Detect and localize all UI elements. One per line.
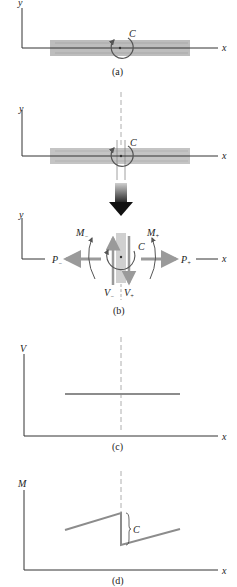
m-plus-label: M+ [146, 227, 159, 239]
down-arrow-icon [109, 183, 133, 216]
v-plus-label: V+ [124, 287, 134, 299]
point-c [119, 47, 121, 49]
panel-b-free-body: y x P− P+ V− V+ C M− M+ (b) [18, 209, 227, 317]
y-axis-label: V [20, 343, 28, 354]
x-axis-label: x [221, 150, 227, 161]
caption-c: (c) [112, 441, 123, 453]
caption-a: (a) [112, 66, 123, 78]
p-plus-label: P+ [180, 254, 191, 266]
panel-b-top: y x C [18, 92, 227, 180]
diagram-canvas: y x C (a) y x C y x [0, 0, 237, 587]
caption-d: (d) [112, 575, 124, 587]
panel-a: y x C (a) [17, 0, 227, 78]
y-axis-label: y [17, 0, 23, 8]
v-minus-label: V− [104, 287, 114, 299]
couple-label: C [138, 241, 145, 252]
y-axis-label: y [18, 103, 24, 114]
x-axis-label: x [221, 431, 227, 442]
y-axis-label: M [17, 478, 27, 489]
moment-line [65, 513, 180, 545]
caption-b: (b) [113, 305, 125, 317]
y-axis-label: y [18, 209, 24, 220]
panel-d-moment-diagram: M x C (d) [17, 471, 227, 587]
x-axis-label: x [221, 253, 227, 264]
brace-icon [126, 513, 131, 545]
p-minus-label: P− [51, 254, 62, 266]
couple-label: C [130, 137, 137, 148]
jump-label: C [133, 524, 140, 535]
m-minus-label: M− [75, 227, 88, 239]
couple-label: C [129, 28, 136, 39]
x-axis-label: x [221, 42, 227, 53]
panel-c-shear-diagram: V x (c) [20, 337, 227, 453]
x-axis-label: x [221, 565, 227, 576]
